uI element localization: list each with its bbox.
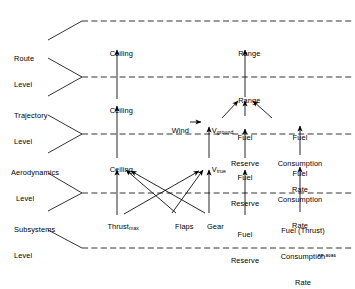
node-range-trajectory-label: Range (238, 96, 260, 105)
node-ceiling-trajectory: Ceiling (101, 98, 133, 124)
node-fuel-thrust-consumption-rate-subsystems: Fuel (Thrust) Consumption Rate (281, 210, 326, 289)
node-gear: Gear (198, 214, 223, 240)
node-ftcr-subsystems-line1: Fuel (Thrust) (281, 227, 326, 236)
level-label-subsystems: Subsystems Level (14, 209, 55, 278)
node-fuel-reserve-subsystems-line2: Reserve (231, 257, 259, 266)
figure-id-tag: FP-8086 (318, 253, 336, 258)
node-v-true-label: V (212, 165, 217, 174)
node-range-route: Range (230, 41, 261, 67)
node-v-ground-label: V (212, 126, 217, 135)
node-fcr-aerodynamics-line2: Consumption (278, 196, 323, 205)
level-label-route-line2: Level (14, 81, 34, 90)
level-label-route-line1: Route (14, 55, 34, 64)
node-wind-label: Wind (172, 126, 189, 135)
arrow-gear-to-ceiling (131, 171, 205, 213)
bracket-trajectory-bottom (48, 115, 82, 134)
node-flaps-label: Flaps (175, 222, 194, 231)
node-fuel-reserve-subsystems-line1: Fuel (231, 231, 259, 240)
node-ceiling-aerodynamics: Ceiling (101, 157, 133, 183)
bracket-route-bottom (48, 58, 82, 77)
level-label-aerodynamics-line1: Aerodynamics (11, 169, 59, 178)
node-flaps: Flaps (166, 214, 193, 240)
node-range-route-label: Range (238, 49, 260, 58)
node-fcr-trajectory-line1: Fuel (278, 134, 323, 143)
node-ftcr-subsystems-line3: Rate (281, 279, 326, 288)
node-fcr-aerodynamics-line1: Fuel (278, 170, 323, 179)
level-label-subsystems-line1: Subsystems (14, 226, 55, 235)
node-v-true-subscript: true (217, 168, 226, 174)
bracket-route-top (48, 21, 82, 40)
node-ceiling-trajectory-label: Ceiling (110, 106, 133, 115)
node-thrust-max-label: Thrust (107, 222, 129, 231)
node-v-true: Vtrue (203, 157, 226, 183)
node-fuel-reserve-aerodynamics-line1: Fuel (231, 174, 259, 183)
level-label-aerodynamics-line2: Level (11, 195, 59, 204)
node-fuel-reserve-aerodynamics-line2: Reserve (231, 200, 259, 209)
node-ceiling-aerodynamics-label: Ceiling (110, 165, 133, 174)
bracket-trajectory-top (48, 77, 82, 96)
level-label-trajectory-line1: Trajectory (14, 112, 48, 121)
node-range-trajectory: Range (230, 88, 261, 114)
node-fuel-reserve-subsystems: Fuel Reserve (231, 214, 259, 283)
node-wind: Wind (163, 118, 189, 144)
arrow-flaps-to-ceiling (126, 170, 176, 213)
arrow-flaps-to-vtrue (172, 170, 203, 213)
node-thrust-max-subscript: max (129, 225, 139, 231)
node-gear-label: Gear (207, 222, 224, 231)
node-ceiling-route-label: Ceiling (110, 49, 133, 58)
node-thrust-max: Thrustmax (99, 214, 139, 240)
bracket-aerodynamics-top (48, 134, 82, 153)
node-ceiling-route: Ceiling (101, 41, 133, 67)
level-label-trajectory-line2: Level (14, 138, 48, 147)
level-label-subsystems-line2: Level (14, 252, 55, 261)
node-v-ground: Vground (203, 118, 233, 144)
node-fuel-reserve-trajectory-line1: Fuel (231, 134, 259, 143)
